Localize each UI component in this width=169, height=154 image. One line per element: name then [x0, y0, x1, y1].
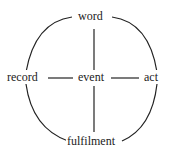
arc-word-record [26, 17, 72, 72]
node-event: event [77, 70, 105, 84]
node-word: word [77, 9, 104, 23]
node-act: act [143, 70, 159, 84]
diagram: word record event act fulfilment [0, 0, 169, 154]
node-fulfilment: fulfilment [66, 134, 116, 148]
node-record: record [6, 70, 39, 84]
arc-act-fulfilment [122, 84, 157, 141]
arc-record-fulfilment [26, 84, 68, 141]
arc-word-act [112, 17, 157, 72]
